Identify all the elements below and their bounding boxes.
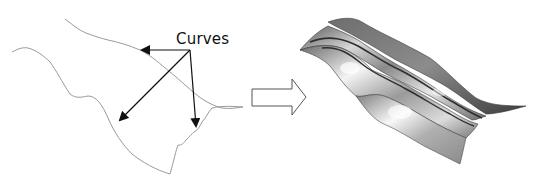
curves-label: Curves: [176, 30, 229, 48]
lower-curve: [12, 48, 243, 174]
lofted-surface: [300, 18, 526, 164]
transition-arrow-icon: [252, 79, 306, 115]
annotation-arrow-lower-left: [120, 50, 190, 120]
annotation-arrow-lower-right: [190, 50, 196, 126]
input-curves-panel: [0, 0, 536, 184]
curves-to-surface-diagram: Curves: [0, 0, 536, 184]
